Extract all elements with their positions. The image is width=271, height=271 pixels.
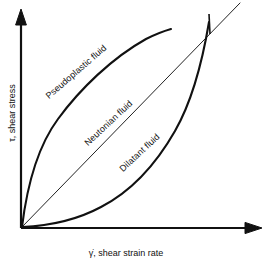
x-axis-label: γ̇, shear strain rate [0,248,252,258]
crossing-tick-mark [209,14,210,34]
y-axis-label: τ, shear stress [7,73,17,153]
curve-dilatant-fluid [22,22,209,227]
x-axis-arrowhead [245,222,262,233]
y-axis-arrowhead [16,9,27,25]
rheology-chart-figure: Pseudoplastic fluid Neutonian fluid Dila… [0,0,271,271]
chart-plot-area [0,0,271,271]
